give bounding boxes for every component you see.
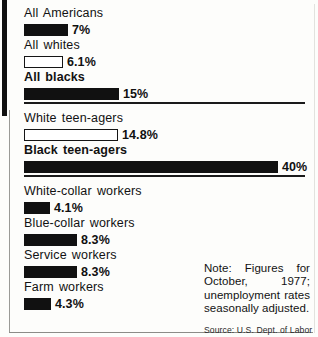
bar-label: White teen-agers <box>24 111 306 126</box>
bar-value-label: 40% <box>282 160 307 174</box>
bar-line: 15% <box>24 86 306 101</box>
bar-value-label: 4.1% <box>54 201 83 215</box>
bar-line: 14.8% <box>24 127 306 142</box>
bar-fill <box>24 161 278 173</box>
bar-line: 4.1% <box>24 200 306 215</box>
bar-row: Blue-collar workers 8.3% <box>24 216 306 247</box>
bar-label: All Americans <box>24 6 306 21</box>
bar-label: Blue-collar workers <box>24 216 306 231</box>
bar-row: All whites 6.1% <box>24 38 306 69</box>
group-divider <box>24 175 305 177</box>
bar-line: 40% <box>24 159 306 174</box>
bar-fill <box>24 266 77 278</box>
unemployment-bar-chart: All Americans 7% All whites 6.1% All bla… <box>0 0 318 337</box>
note-block: Note: Figures for October, 1977; unemplo… <box>204 262 310 335</box>
bar-label: All whites <box>24 38 306 53</box>
bar-label: All blacks <box>24 70 306 85</box>
bar-fill <box>24 298 51 310</box>
chart-note: Note: Figures for October, 1977; unemplo… <box>204 262 310 316</box>
bar-label: Service workers <box>24 248 306 263</box>
bar-row: White-collar workers 4.1% <box>24 184 306 215</box>
bar-row: White teen-agers 14.8% <box>24 111 306 142</box>
bar-row: All blacks 15% <box>24 70 306 101</box>
bar-fill <box>24 202 50 214</box>
bar-fill <box>24 88 119 100</box>
bar-value-label: 14.8% <box>122 128 158 142</box>
bar-value-label: 6.1% <box>67 55 96 69</box>
group-overall: All Americans 7% All whites 6.1% All bla… <box>24 0 306 101</box>
bar-fill <box>24 56 63 68</box>
bar-fill <box>24 24 68 36</box>
bar-value-label: 8.3% <box>81 233 110 247</box>
bar-value-label: 8.3% <box>81 265 110 279</box>
bar-value-label: 4.3% <box>55 297 84 311</box>
bar-line: 8.3% <box>24 232 306 247</box>
bar-line: 7% <box>24 22 306 37</box>
left-rule-thick <box>2 0 7 116</box>
bar-label: White-collar workers <box>24 184 306 199</box>
left-rule-thin <box>9 110 10 332</box>
bar-row: All Americans 7% <box>24 6 306 37</box>
group-teenagers: White teen-agers 14.8% Black teen-agers … <box>24 106 306 174</box>
bar-fill <box>24 234 77 246</box>
chart-source: Source: U.S. Dept. of Labor <box>204 325 310 335</box>
bar-fill <box>24 129 118 141</box>
bar-value-label: 7% <box>72 23 90 37</box>
bar-line: 6.1% <box>24 54 306 69</box>
bar-row: Black teen-agers 40% <box>24 143 306 174</box>
bar-label: Black teen-agers <box>24 143 306 158</box>
group-divider <box>24 102 305 104</box>
right-rule <box>314 4 315 333</box>
bar-value-label: 15% <box>123 87 148 101</box>
